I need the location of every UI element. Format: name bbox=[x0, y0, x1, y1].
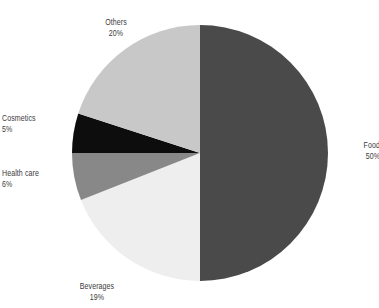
pie-slices-group bbox=[72, 25, 328, 281]
slice-label-beverages-name: Beverages bbox=[63, 281, 130, 292]
slice-label-beverages-value: 19% bbox=[63, 292, 130, 303]
pie-chart-figure: Others 20% Cosmetics 5% Health care 6% B… bbox=[0, 0, 379, 308]
slice-label-food-name: Food bbox=[346, 140, 379, 151]
pie-slice-food[interactable] bbox=[200, 25, 328, 281]
slice-label-health-care-value: 6% bbox=[2, 179, 55, 190]
slice-label-cosmetics-value: 5% bbox=[2, 124, 55, 135]
slice-label-others: Others 20% bbox=[90, 17, 142, 39]
pie-chart-canvas bbox=[0, 0, 379, 308]
slice-label-health-care: Health care 6% bbox=[2, 168, 55, 190]
slice-label-others-value: 20% bbox=[90, 28, 142, 39]
slice-label-cosmetics-name: Cosmetics bbox=[2, 113, 55, 124]
slice-label-cosmetics: Cosmetics 5% bbox=[2, 113, 55, 135]
slice-label-food: Food 50% bbox=[346, 140, 379, 162]
slice-label-beverages: Beverages 19% bbox=[63, 281, 130, 303]
slice-label-health-care-name: Health care bbox=[2, 168, 55, 179]
slice-label-others-name: Others bbox=[90, 17, 142, 28]
slice-label-food-value: 50% bbox=[346, 151, 379, 162]
